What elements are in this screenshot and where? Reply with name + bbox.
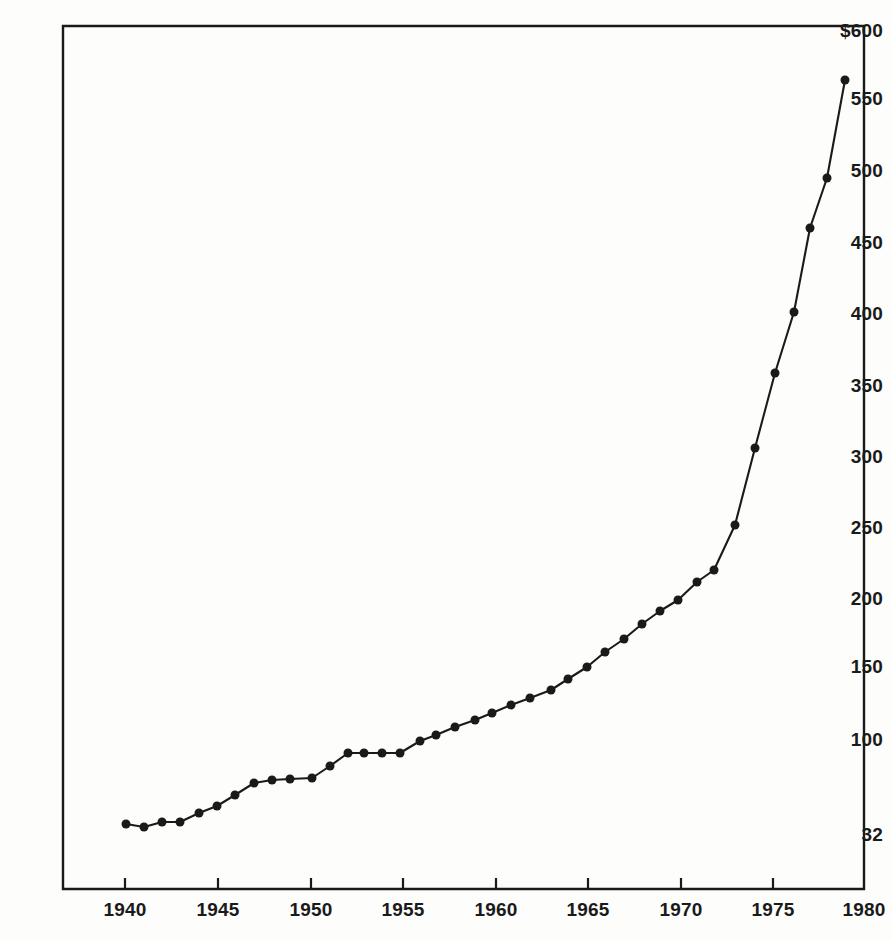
x-axis-label-1965: 1965 [543,900,633,919]
chart-container: $60055050045040035030025020015010032 194… [0,0,892,940]
x-axis-label-1955: 1955 [358,900,448,919]
x-axis-label-1960: 1960 [451,900,541,919]
x-axis-label-1980: 1980 [819,900,892,919]
x-axis-label-1950: 1950 [266,900,356,919]
x-axis-tick-labels: 194019451950195519601965197019751980 [0,0,892,940]
x-axis-label-1975: 1975 [728,900,818,919]
x-axis-label-1940: 1940 [80,900,170,919]
x-axis-label-1945: 1945 [173,900,263,919]
x-axis-label-1970: 1970 [636,900,726,919]
